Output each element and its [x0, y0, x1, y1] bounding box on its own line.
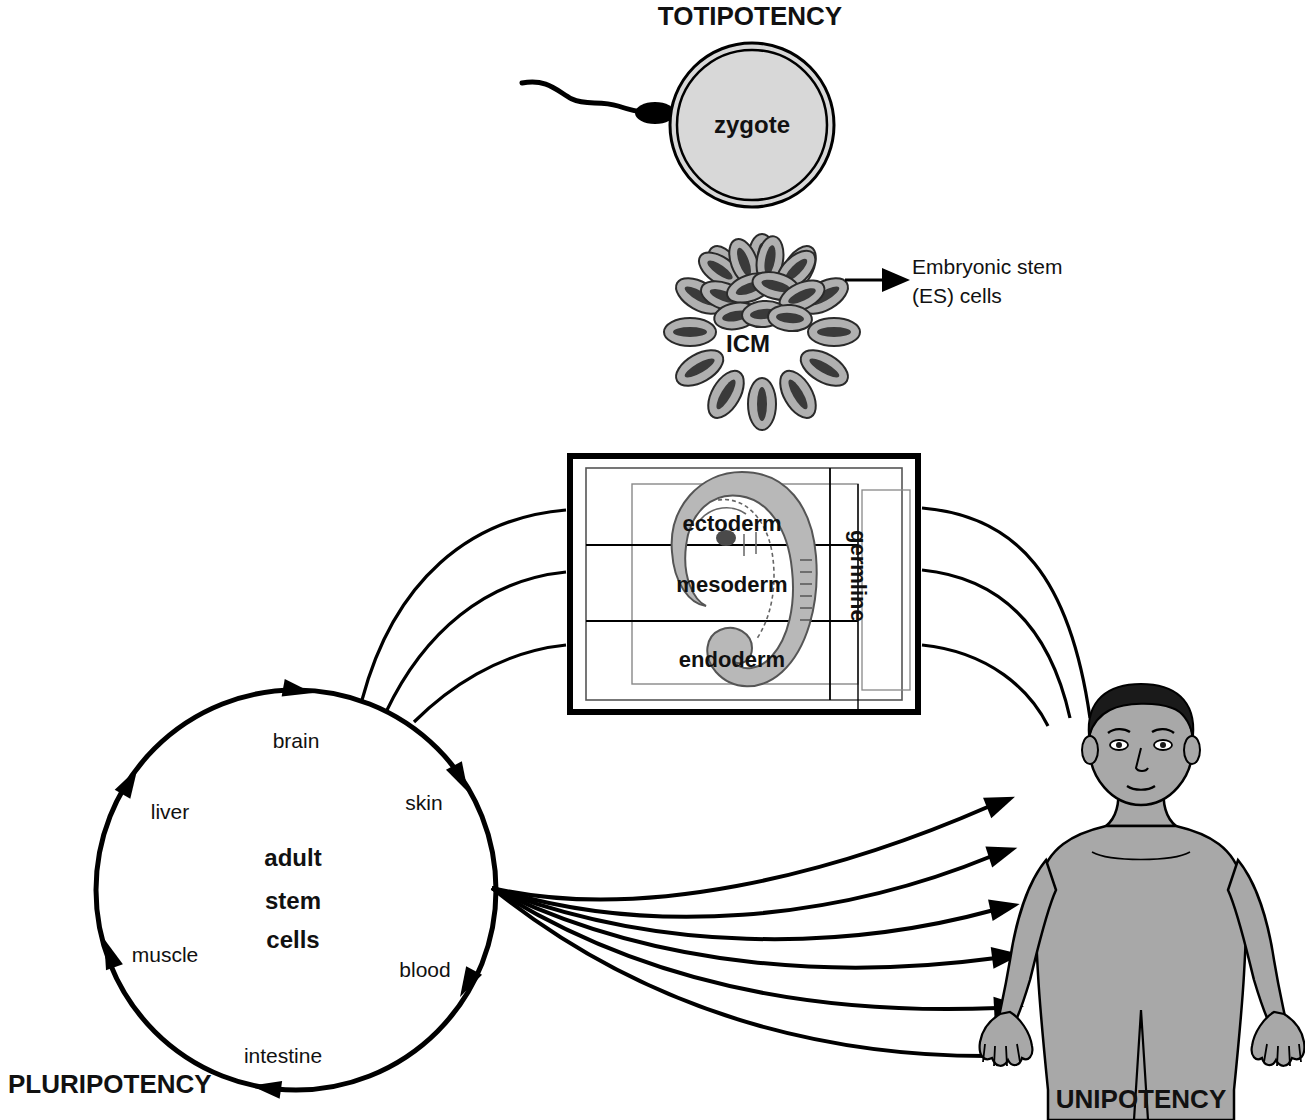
- blastocyst: ICM: [664, 234, 860, 430]
- tissue-label-intestine: intestine: [244, 1044, 322, 1067]
- adult-stem-cells-line1: adult: [264, 844, 321, 871]
- embryo-to-stemcells-curves: [362, 510, 566, 722]
- fan-arrow: [492, 837, 1021, 917]
- sperm-cell: [522, 82, 675, 124]
- fan-arrow: [492, 787, 1019, 900]
- adult-stem-cell-circle: brain skin blood intestine muscle liver …: [96, 679, 496, 1099]
- right-hand: [1252, 1012, 1305, 1066]
- adult-stem-cells-line2: stem: [265, 887, 321, 914]
- tissue-label-skin: skin: [405, 791, 442, 814]
- unipotency-heading: UNIPOTENCY: [1056, 1084, 1226, 1114]
- germ-layer-label-endoderm: endoderm: [679, 647, 785, 672]
- adult-human-figure: [980, 684, 1305, 1120]
- germ-layer-label-ectoderm: ectoderm: [682, 511, 781, 536]
- embryo-panel: ectoderm mesoderm endoderm germline: [570, 456, 918, 712]
- germline-label: germline: [846, 530, 871, 622]
- es-cells-label-line2: (ES) cells: [912, 284, 1002, 307]
- tissue-label-muscle: muscle: [132, 943, 199, 966]
- embryo-to-human-curves: [922, 508, 1090, 726]
- germ-layer-label-mesoderm: mesoderm: [676, 572, 787, 597]
- es-cells-arrow: [845, 268, 910, 292]
- pluripotency-heading: PLURIPOTENCY: [8, 1069, 212, 1099]
- zygote-cell: zygote: [670, 43, 834, 207]
- diagram-canvas: TOTIPOTENCY zygote: [0, 0, 1305, 1120]
- tissue-label-blood: blood: [399, 958, 450, 981]
- adult-stem-cells-line3: cells: [266, 926, 319, 953]
- es-cells-label-line1: Embryonic stem: [912, 255, 1063, 278]
- stemcells-to-human-arrows: [492, 787, 1026, 1067]
- icm-label: ICM: [726, 330, 770, 357]
- stem-cell-potency-diagram: TOTIPOTENCY zygote: [0, 0, 1305, 1120]
- left-hand: [980, 1012, 1033, 1066]
- tissue-label-liver: liver: [151, 800, 190, 823]
- circle-arrowhead-muscle: [96, 936, 123, 970]
- tissue-label-brain: brain: [273, 729, 320, 752]
- totipotency-heading: TOTIPOTENCY: [658, 1, 842, 31]
- zygote-label: zygote: [714, 111, 790, 138]
